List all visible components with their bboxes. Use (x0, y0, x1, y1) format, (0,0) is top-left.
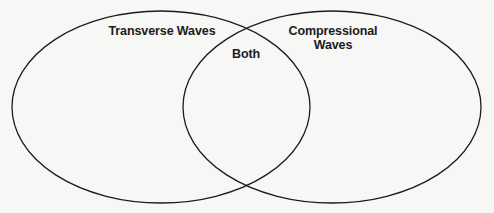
compressional-waves-label-line-2: Waves (283, 38, 383, 52)
compressional-waves-label: Compressional Waves (283, 24, 383, 52)
compressional-waves-label-line-1: Compressional (283, 24, 383, 38)
venn-diagram (0, 0, 494, 213)
transverse-waves-label: Transverse Waves (108, 24, 216, 38)
both-label: Both (228, 47, 264, 61)
transverse-waves-circle (12, 11, 310, 203)
